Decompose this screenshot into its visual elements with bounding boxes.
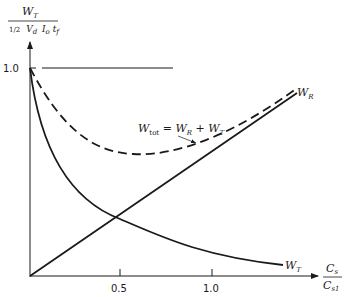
- x-label-denominator: Cs1: [323, 279, 339, 293]
- wtot-leader-arrow: [178, 136, 196, 143]
- series-wtot-curve: [30, 68, 297, 154]
- x-label-numerator: Cs: [326, 262, 338, 276]
- series-wr-line: [30, 93, 297, 276]
- series-wt-curve: [30, 68, 283, 265]
- chart: WT 1/2 Vd Io tf 1.0 0.5 1.0 Cs Cs1: [0, 0, 350, 297]
- wr-end-label: WR: [297, 86, 314, 101]
- y-tick-label-1: 1.0: [3, 63, 19, 74]
- y-axis-label: WT 1/2 Vd Io tf: [8, 5, 60, 36]
- wt-end-label: WT: [285, 259, 302, 274]
- x-tick-label-05: 0.5: [111, 283, 127, 294]
- x-tick-label-10: 1.0: [203, 283, 219, 294]
- wtot-label: Wtot = WR + WT: [138, 122, 226, 137]
- y-label-numerator: WT: [22, 5, 39, 20]
- x-axis-label: Cs Cs1: [323, 262, 342, 293]
- y-label-denominator: 1/2 Vd Io tf: [9, 24, 60, 36]
- wtot-annotation: Wtot = WR + WT: [138, 122, 226, 143]
